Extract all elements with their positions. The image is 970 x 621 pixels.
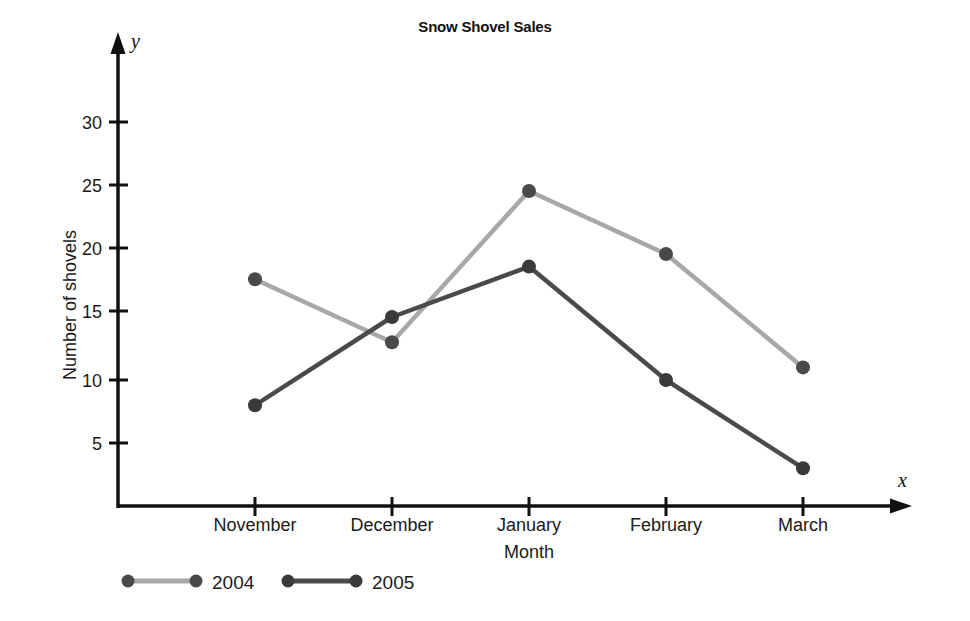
data-point-2005-February[interactable] [659, 373, 673, 387]
x-axis-title: Month [504, 542, 554, 562]
y-tick-label-25: 25 [82, 176, 102, 196]
legend-marker-2005 [282, 575, 295, 588]
x-axis-variable-label: x [897, 469, 907, 491]
data-point-2004-November[interactable] [248, 272, 262, 286]
legend-label-2004: 2004 [212, 572, 255, 593]
legend-marker-2004 [122, 575, 135, 588]
data-point-2005-December[interactable] [385, 310, 399, 324]
data-point-2005-March[interactable] [796, 461, 810, 475]
legend-marker-2004-end [190, 575, 203, 588]
x-tick-label-january: January [497, 515, 561, 535]
y-axis [111, 32, 126, 508]
legend-item-2005[interactable]: 2005 [282, 572, 415, 593]
y-tick-label-30: 30 [82, 113, 102, 133]
x-tick-label-december: December [350, 515, 433, 535]
y-tick-label-10: 10 [82, 371, 102, 391]
y-tick-label-20: 20 [82, 239, 102, 259]
x-tick-label-november: November [213, 515, 296, 535]
data-point-2004-January[interactable] [522, 184, 536, 198]
series-line-2004 [255, 191, 803, 367]
y-tick-label-5: 5 [92, 434, 102, 454]
data-series-layer [248, 184, 810, 475]
x-tick-label-february: February [630, 515, 702, 535]
data-point-2005-November[interactable] [248, 398, 262, 412]
chart-container: Snow Shovel Sales y x 30 25 20 15 [0, 0, 970, 621]
x-tick-label-march: March [778, 515, 828, 535]
data-point-2004-March[interactable] [796, 360, 810, 374]
x-axis [118, 499, 912, 514]
line-chart-plot: y x 30 25 20 15 10 5 Number of shovels [0, 0, 970, 621]
y-tick-label-15: 15 [82, 302, 102, 322]
legend-marker-2005-end [350, 575, 363, 588]
series-2004 [248, 184, 810, 374]
data-point-2004-February[interactable] [659, 247, 673, 261]
data-point-2005-January[interactable] [522, 260, 536, 274]
y-axis-title: Number of shovels [60, 230, 80, 380]
y-axis-variable-label: y [129, 30, 140, 53]
series-2005 [248, 260, 810, 476]
legend-label-2005: 2005 [372, 572, 414, 593]
legend-item-2004[interactable]: 2004 [122, 572, 255, 593]
chart-legend: 2004 2005 [122, 572, 415, 593]
data-point-2004-December[interactable] [385, 335, 399, 349]
